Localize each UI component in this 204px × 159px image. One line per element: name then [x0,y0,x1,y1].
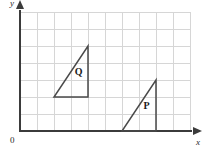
y-axis-arrow-icon [16,0,24,9]
figure-canvas: QP y x 0 [0,0,204,159]
axes [16,0,202,135]
y-axis-label: y [9,0,14,8]
x-axis-arrow-icon [193,127,202,135]
origin-label: 0 [10,135,15,145]
x-axis-label: x [195,137,200,147]
triangle-label-p: P [144,100,150,111]
grid-lines [20,12,190,131]
triangle-label-q: Q [75,66,83,77]
coordinate-grid-figure: QP y x 0 [0,0,204,159]
